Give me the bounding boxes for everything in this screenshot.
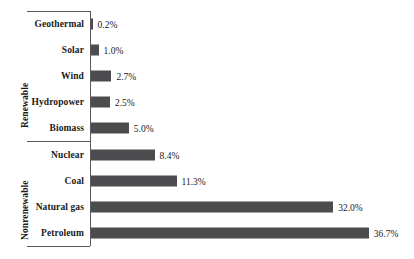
group-bracket-bottom (27, 246, 90, 247)
category-label: Petroleum (41, 228, 84, 238)
bar-row: Solar 1.0% (0, 37, 414, 63)
bar-group: 0.2% (91, 19, 117, 30)
bar (91, 150, 155, 161)
value-label: 11.3% (182, 176, 206, 186)
category-label: Biomass (50, 123, 84, 133)
bar (91, 97, 110, 108)
bar-row: Hydropower 2.5% (0, 89, 414, 115)
category-label: Coal (65, 176, 84, 186)
bar-row: Nuclear 8.4% (0, 142, 414, 168)
category-label: Hydropower (31, 97, 84, 107)
bar-group: 11.3% (91, 176, 206, 187)
bar (91, 19, 93, 30)
bar-row: Natural gas 32.0% (0, 194, 414, 220)
category-label: Natural gas (36, 202, 84, 212)
bar-row: Petroleum 36.7% (0, 220, 414, 246)
value-label: 8.4% (160, 150, 180, 160)
bar-row: Geothermal 0.2% (0, 11, 414, 37)
bar (91, 71, 111, 82)
value-label: 2.5% (115, 97, 135, 107)
bar-group: 2.7% (91, 71, 136, 82)
value-label: 1.0% (104, 45, 124, 55)
bar-chart: Renewable Nonrenewable Geothermal 0.2% S… (0, 0, 414, 259)
category-label: Geothermal (34, 19, 84, 29)
value-label: 0.2% (98, 19, 118, 29)
category-label: Nuclear (51, 150, 84, 160)
bar-group: 36.7% (91, 228, 398, 239)
bar-row: Biomass 5.0% (0, 115, 414, 141)
bar-row: Coal 11.3% (0, 168, 414, 194)
bar (91, 123, 129, 134)
value-label: 5.0% (134, 123, 154, 133)
bar-row: Wind 2.7% (0, 63, 414, 89)
value-label: 32.0% (338, 202, 363, 212)
bar-group: 32.0% (91, 202, 363, 213)
bar (91, 228, 369, 239)
bar-group: 2.5% (91, 97, 135, 108)
bar-group: 8.4% (91, 150, 179, 161)
bar-group: 5.0% (91, 123, 154, 134)
bar (91, 176, 177, 187)
bar (91, 45, 99, 56)
bar (91, 202, 333, 213)
bar-group: 1.0% (91, 45, 123, 56)
value-label: 2.7% (116, 71, 136, 81)
category-label: Wind (61, 71, 84, 81)
category-label: Solar (62, 45, 84, 55)
value-label: 36.7% (374, 228, 399, 238)
